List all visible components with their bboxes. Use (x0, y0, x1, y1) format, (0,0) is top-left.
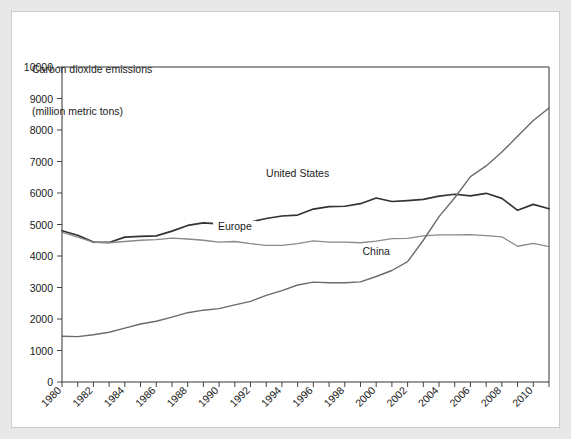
series-line-china (62, 108, 549, 337)
figure-panel: Carbon dioxide emissions (million metric… (11, 11, 560, 428)
plot-border (62, 67, 549, 382)
y-tick-label-2000: 2000 (30, 313, 54, 325)
y-tick-label-5000: 5000 (30, 219, 54, 231)
line-chart-plot: 0100020003000400050006000700080009000100… (12, 12, 561, 429)
x-tick-label-1990: 1990 (196, 384, 221, 409)
y-tick-label-10000: 10000 (24, 61, 53, 73)
x-tick-label-1984: 1984 (101, 384, 126, 409)
annotation-united-states: United States (266, 167, 329, 179)
x-tick-label-1998: 1998 (321, 384, 346, 409)
y-tick-label-7000: 7000 (30, 156, 54, 168)
x-tick-label-1980: 1980 (38, 384, 63, 409)
annotation-china: China (362, 245, 390, 257)
x-tick-label-1986: 1986 (133, 384, 158, 409)
x-tick-label-1996: 1996 (290, 384, 315, 409)
x-tick-label-1994: 1994 (258, 384, 283, 409)
figure-outer-frame: Carbon dioxide emissions (million metric… (0, 0, 571, 439)
x-tick-label-1988: 1988 (164, 384, 189, 409)
x-tick-label-2002: 2002 (384, 384, 409, 409)
x-tick-label-1982: 1982 (70, 384, 95, 409)
y-tick-label-8000: 8000 (30, 124, 54, 136)
x-axis: 1980198219841986198819901992199419961998… (38, 382, 549, 409)
x-tick-label-2008: 2008 (478, 384, 503, 409)
y-axis: 0100020003000400050006000700080009000100… (24, 61, 62, 388)
x-tick-label-2006: 2006 (447, 384, 472, 409)
annotation-europe: Europe (218, 220, 252, 232)
y-tick-label-3000: 3000 (30, 282, 54, 294)
y-tick-label-6000: 6000 (30, 187, 54, 199)
x-tick-label-1992: 1992 (227, 384, 252, 409)
x-tick-label-2000: 2000 (353, 384, 378, 409)
data-series-group (62, 108, 549, 337)
x-tick-label-2004: 2004 (415, 384, 440, 409)
y-tick-label-1000: 1000 (30, 345, 54, 357)
y-tick-label-4000: 4000 (30, 250, 54, 262)
axis-spines (62, 67, 549, 382)
series-line-europe (62, 232, 549, 246)
x-tick-label-2010: 2010 (510, 384, 535, 409)
y-tick-label-9000: 9000 (30, 93, 54, 105)
